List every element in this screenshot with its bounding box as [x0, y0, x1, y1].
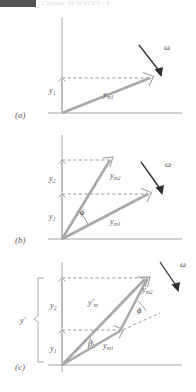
panel-b-label-ym2: ym2 — [109, 170, 121, 181]
panel-c-yprime-bracket — [34, 278, 44, 362]
panel-c-label-ym-prime: y′m — [87, 297, 98, 309]
panel-c-omega-arrowhead — [172, 282, 181, 292]
panel-a: y1 ym1 ω (a) — [15, 18, 182, 120]
panel-a-omega-arrow — [139, 45, 160, 72]
panel-c-label-ym1: ym1 — [102, 340, 114, 351]
panel-c-phi-label: ϕ — [137, 305, 142, 315]
panel-b: y2 y1 ym2 ym1 ϕ ω (b) — [15, 135, 182, 245]
panel-a-omega-arrowhead — [155, 67, 164, 77]
panel-b-omega-arrow — [141, 162, 161, 190]
panel-c-label-ym2: ym2 — [141, 284, 153, 295]
panel-c-omega-label: ω — [180, 259, 186, 269]
panel-c-beta-label: β — [87, 338, 93, 348]
panel-b-label-y2: y2 — [48, 173, 56, 184]
panel-c-phasor-ym-prime — [62, 279, 145, 365]
panel-c-label-yprime: y′ — [19, 315, 26, 326]
panel-b-omega-arrowhead — [156, 185, 165, 195]
phasor-figure: y1 ym1 ω (a) y2 — [0, 0, 196, 392]
panel-c-label-y2: y2 — [49, 300, 57, 311]
panel-b-label-ym1: ym1 — [109, 216, 121, 227]
panel-c-caption: (c) — [15, 362, 25, 372]
panel-c: y′ y2 y1 y′m ym2 ym1 β ϕ ω (c) — [15, 259, 186, 372]
panel-c-omega-arrow — [160, 262, 177, 287]
panel-c-label-y1: y1 — [49, 343, 57, 354]
panel-b-caption: (b) — [15, 235, 26, 245]
panel-b-phi-label: ϕ — [80, 207, 85, 217]
panel-b-label-y1: y1 — [48, 211, 56, 222]
panel-a-label-y1: y1 — [48, 85, 56, 96]
panel-a-omega-label: ω — [164, 42, 170, 52]
panel-a-caption: (a) — [15, 110, 26, 120]
panel-a-label-ym1: ym1 — [102, 89, 114, 100]
panel-b-omega-label: ω — [165, 159, 171, 169]
